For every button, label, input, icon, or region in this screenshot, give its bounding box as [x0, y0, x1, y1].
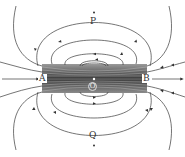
label-a: A — [38, 74, 47, 83]
loops-above — [34, 23, 151, 67]
label-p: P — [89, 17, 97, 26]
point-p-marker — [93, 12, 95, 14]
label-b: B — [142, 74, 151, 83]
external-lines-right — [147, 6, 185, 150]
external-lines-left — [0, 6, 42, 150]
loops-below — [32, 92, 153, 136]
point-q-marker — [93, 145, 95, 147]
label-q: Q — [88, 131, 97, 140]
label-o: O — [88, 82, 97, 91]
